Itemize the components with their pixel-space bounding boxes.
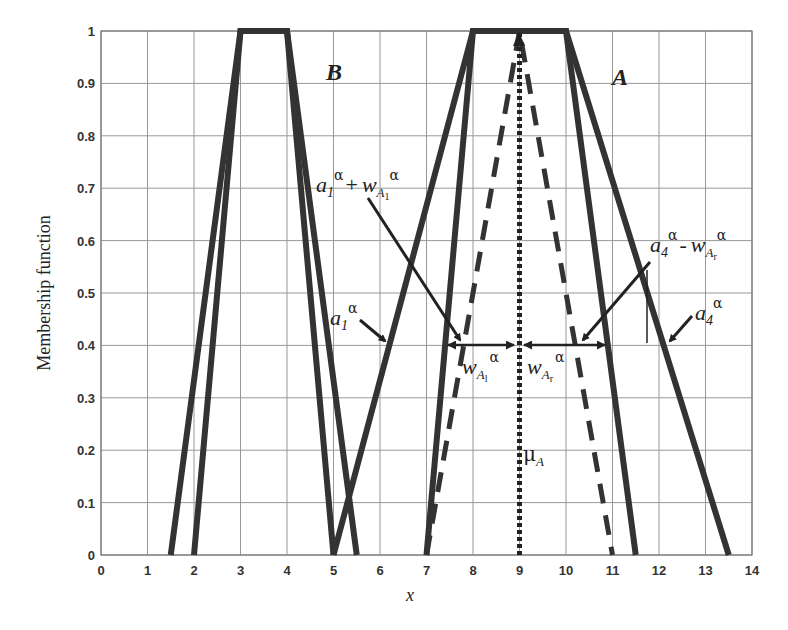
shape-label-a: A: [610, 64, 628, 90]
annotation-a4: a4α: [670, 295, 723, 341]
y-tick-label: 0.8: [77, 129, 95, 144]
x-tick-label: 11: [606, 563, 620, 578]
width-arrows: wAlα wArα: [448, 345, 605, 384]
svg-text:wAlα: wAlα: [462, 349, 499, 384]
arrow-a4: [670, 316, 692, 341]
y-tick-label: 0.7: [77, 181, 95, 196]
y-tick-label: 0.3: [77, 391, 95, 406]
x-tick-label: 5: [330, 563, 337, 578]
svg-text:a4α-wArα: a4α-wArα: [650, 227, 727, 262]
x-tick-label: 4: [283, 563, 291, 578]
annotation-a1: a1α: [330, 300, 385, 341]
y-tick-label: 0.1: [77, 496, 95, 511]
x-tick-label: 10: [559, 563, 573, 578]
x-tick-label: 2: [190, 563, 197, 578]
x-tick-label: 3: [237, 563, 244, 578]
x-tick-label: 12: [652, 563, 666, 578]
y-tick-label: 0.5: [77, 286, 95, 301]
y-tick-label: 0.2: [77, 443, 95, 458]
y-tick-label: 1: [88, 24, 95, 39]
membership-function-chart: 01234567891011121314 00.10.20.30.40.50.6…: [0, 0, 788, 630]
arrow-a1: [360, 320, 385, 341]
x-tick-label: 14: [745, 563, 760, 578]
y-tick-labels: 00.10.20.30.40.50.60.70.80.91: [77, 24, 96, 563]
x-tick-label: 13: [698, 563, 712, 578]
svg-text:a4α: a4α: [695, 295, 723, 328]
shape-label-b: B: [325, 59, 342, 85]
x-tick-label: 0: [97, 563, 104, 578]
arrow-a1-plus-wa1: [368, 198, 460, 340]
arrow-a4-minus-war: [583, 262, 650, 340]
mu-a-label: μA: [523, 442, 544, 469]
x-tick-label: 1: [144, 563, 151, 578]
y-tick-label: 0.9: [77, 76, 95, 91]
x-tick-label: 9: [516, 563, 523, 578]
y-axis-label: Membership function: [34, 215, 54, 370]
y-tick-label: 0: [88, 548, 95, 563]
y-tick-label: 0.6: [77, 234, 95, 249]
x-axis-label: x: [405, 585, 414, 605]
svg-text:a1α: a1α: [330, 300, 358, 333]
mu-arrow-head-icon: [513, 32, 525, 46]
x-tick-labels: 01234567891011121314: [97, 563, 760, 578]
svg-text:wArα: wArα: [527, 349, 565, 384]
svg-text:a1α+wA1α: a1α+wA1α: [316, 167, 400, 202]
y-tick-label: 0.4: [77, 338, 96, 353]
x-tick-label: 7: [423, 563, 430, 578]
x-tick-label: 6: [376, 563, 383, 578]
x-tick-label: 8: [469, 563, 476, 578]
